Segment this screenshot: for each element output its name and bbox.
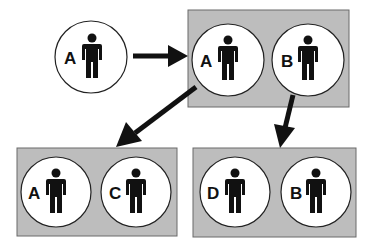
node-label: A: [28, 184, 40, 203]
node-label: A: [64, 49, 76, 68]
node-left-a: A: [21, 157, 91, 227]
node-right-b: B: [281, 157, 351, 227]
node-left-c: C: [101, 157, 171, 227]
node-single-a: A: [55, 21, 127, 93]
node-label: D: [207, 184, 219, 203]
node-label: B: [281, 52, 293, 71]
node-label: B: [290, 184, 302, 203]
node-top-a: A: [192, 24, 264, 96]
node-label: C: [109, 184, 121, 203]
pairing-diagram: A A B A C D B: [0, 0, 373, 247]
node-top-b: B: [272, 24, 344, 96]
node-right-d: D: [200, 157, 270, 227]
arrow-right: [133, 45, 188, 67]
node-label: A: [200, 52, 212, 71]
arrow-down-left: [116, 87, 196, 147]
